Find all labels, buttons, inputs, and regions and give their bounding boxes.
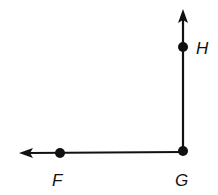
ray-gf [19,148,183,158]
point-h [178,42,188,52]
point-g [178,146,188,156]
label-f: F [52,171,64,190]
point-f [55,148,65,158]
label-h: H [196,39,209,58]
ray-gh [178,9,188,152]
label-g: G [175,171,188,190]
angle-diagram: F G H [0,0,218,195]
